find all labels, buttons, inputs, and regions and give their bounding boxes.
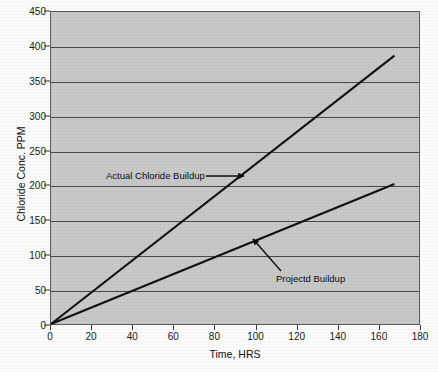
y-axis-title: Chloride Conc. PPM bbox=[15, 99, 27, 249]
x-tick-mark bbox=[379, 325, 380, 330]
x-tick-label: 140 bbox=[329, 331, 346, 342]
chart-figure: 050100150200250300350400450 020406080100… bbox=[0, 0, 438, 372]
x-tick-mark bbox=[256, 325, 257, 330]
x-tick-label: 60 bbox=[168, 331, 179, 342]
annotation-label-projectd-buildup: Projectd Buildup bbox=[276, 273, 345, 284]
x-tick-label: 180 bbox=[412, 331, 429, 342]
x-tick-label: 0 bbox=[47, 331, 53, 342]
x-tick-mark bbox=[214, 325, 215, 330]
x-tick-mark bbox=[420, 325, 421, 330]
x-tick-mark bbox=[338, 325, 339, 330]
x-tick-label: 20 bbox=[86, 331, 97, 342]
x-axis-ticks: 020406080100120140160180 bbox=[0, 0, 438, 372]
x-tick-label: 120 bbox=[288, 331, 305, 342]
x-tick-label: 100 bbox=[247, 331, 264, 342]
annotation-label-actual-chloride-buildup: Actual Chloride Buildup bbox=[106, 170, 205, 181]
x-tick-mark bbox=[132, 325, 133, 330]
x-tick-label: 160 bbox=[371, 331, 388, 342]
x-tick-mark bbox=[297, 325, 298, 330]
x-axis-title: Time, HRS bbox=[50, 348, 420, 360]
x-tick-mark bbox=[91, 325, 92, 330]
x-tick-label: 40 bbox=[127, 331, 138, 342]
x-tick-mark bbox=[50, 325, 51, 330]
x-tick-label: 80 bbox=[209, 331, 220, 342]
x-tick-mark bbox=[173, 325, 174, 330]
